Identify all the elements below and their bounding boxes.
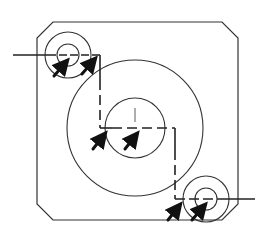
arrow-icon — [82, 60, 94, 74]
arrow-icon — [168, 206, 179, 220]
arrow-icon — [93, 135, 104, 149]
arrow-icon — [54, 62, 66, 76]
technical-drawing — [0, 0, 268, 243]
drawing-canvas — [0, 0, 268, 243]
arrow-icon — [192, 206, 204, 220]
arrow-icon — [125, 135, 136, 149]
